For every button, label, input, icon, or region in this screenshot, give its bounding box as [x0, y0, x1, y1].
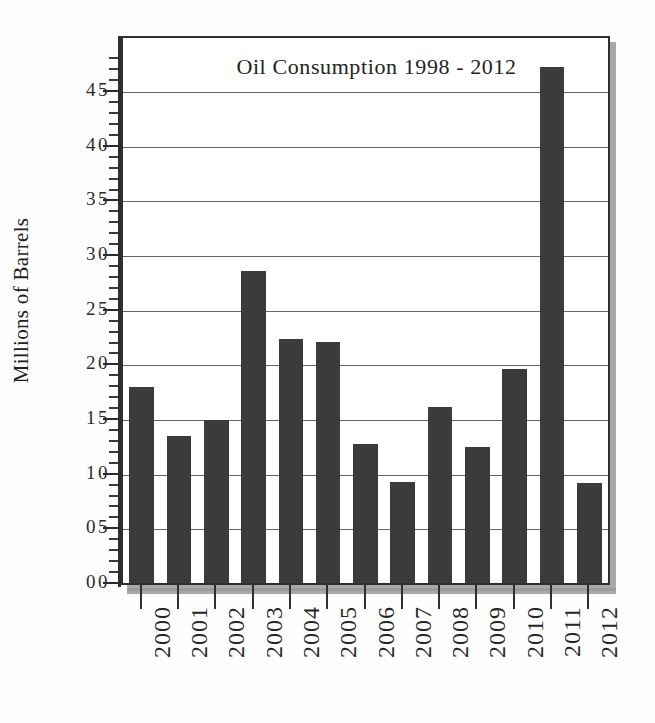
- bar-chart: Millions of Barrels 00051015202530354045…: [0, 0, 655, 723]
- y-axis-minor-tick: [109, 331, 118, 333]
- y-axis-minor-tick: [109, 571, 118, 573]
- y-axis-minor-tick: [109, 68, 118, 70]
- y-axis-minor-tick: [109, 396, 118, 398]
- y-axis-minor-tick: [109, 429, 118, 431]
- y-axis-major-tick: [103, 527, 118, 529]
- y-axis-tick-labels: 00051015202530354045: [52, 0, 114, 723]
- bar: [502, 369, 527, 584]
- y-axis-minor-tick: [109, 287, 118, 289]
- y-axis-major-tick: [103, 199, 118, 201]
- x-axis-tick-label: 2008: [447, 606, 474, 658]
- x-axis-tick-label: 2011: [559, 606, 586, 657]
- y-axis-minor-tick: [109, 495, 118, 497]
- y-axis-minor-tick: [109, 451, 118, 453]
- y-axis-minor-tick: [109, 265, 118, 267]
- x-axis-tick-label: 2012: [596, 606, 623, 658]
- y-axis-major-tick: [103, 145, 118, 147]
- x-axis-tick-label: 2005: [335, 606, 362, 658]
- y-axis-minor-tick: [109, 243, 118, 245]
- y-axis-minor-tick: [109, 407, 118, 409]
- x-axis-tick-labels: 2000200120022003200420052006200720082009…: [121, 606, 610, 716]
- bar: [577, 483, 602, 584]
- y-axis-minor-tick: [109, 79, 118, 81]
- x-axis-tick-label: 2010: [522, 606, 549, 658]
- x-axis-tick-label: 2000: [149, 606, 176, 658]
- y-axis-minor-tick: [109, 320, 118, 322]
- plot-area: Oil Consumption 1998 - 2012: [121, 36, 610, 585]
- bar: [129, 387, 154, 584]
- bar: [465, 447, 490, 584]
- y-axis-major-tick: [103, 254, 118, 256]
- y-axis-minor-tick: [109, 342, 118, 344]
- y-axis-minor-tick: [109, 276, 118, 278]
- bar: [167, 436, 192, 584]
- y-axis-minor-tick: [109, 57, 118, 59]
- x-axis-tick-label: 2006: [373, 606, 400, 658]
- y-axis-minor-tick: [109, 112, 118, 114]
- bar: [279, 339, 304, 584]
- y-axis-minor-tick: [109, 232, 118, 234]
- y-axis-minor-tick: [109, 374, 118, 376]
- x-axis-tick-label: 2001: [186, 606, 213, 658]
- bars-container: [123, 38, 608, 583]
- y-axis-minor-tick: [109, 167, 118, 169]
- y-axis-minor-tick: [109, 101, 118, 103]
- bar: [241, 271, 266, 584]
- y-axis-major-tick: [103, 309, 118, 311]
- y-axis-minor-tick: [109, 505, 118, 507]
- y-axis-major-tick: [103, 418, 118, 420]
- y-axis-minor-tick: [109, 352, 118, 354]
- bar: [316, 342, 341, 584]
- bar: [390, 482, 415, 584]
- y-axis-minor-tick: [109, 123, 118, 125]
- y-axis-title: Millions of Barrels: [0, 0, 44, 600]
- y-axis-minor-tick: [109, 221, 118, 223]
- y-axis-minor-tick: [109, 178, 118, 180]
- bar: [204, 420, 229, 584]
- x-axis-tick-label: 2004: [298, 606, 325, 658]
- y-axis-minor-tick: [109, 210, 118, 212]
- x-axis-tick-label: 2003: [261, 606, 288, 658]
- y-axis-title-text: Millions of Barrels: [10, 217, 35, 383]
- y-axis-minor-tick: [109, 134, 118, 136]
- x-axis-tick-label: 2007: [410, 606, 437, 658]
- y-axis-minor-tick: [109, 385, 118, 387]
- y-axis-minor-tick: [109, 549, 118, 551]
- x-axis-tick-label: 2002: [223, 606, 250, 658]
- y-axis-spine: [118, 36, 121, 587]
- y-axis-minor-tick: [109, 462, 118, 464]
- y-axis-major-tick: [103, 90, 118, 92]
- y-axis-minor-tick: [109, 440, 118, 442]
- y-axis-major-tick: [103, 582, 118, 584]
- y-axis-minor-tick: [109, 560, 118, 562]
- y-axis-minor-tick: [109, 484, 118, 486]
- bar: [540, 67, 565, 584]
- y-axis-minor-tick: [109, 156, 118, 158]
- bar: [428, 407, 453, 584]
- y-axis-minor-tick: [109, 538, 118, 540]
- y-axis-major-tick: [103, 363, 118, 365]
- y-axis-minor-tick: [109, 189, 118, 191]
- y-axis-major-tick: [103, 473, 118, 475]
- y-axis-minor-tick: [109, 298, 118, 300]
- y-axis-minor-tick: [109, 516, 118, 518]
- x-axis-tick-label: 2009: [484, 606, 511, 658]
- bar: [353, 444, 378, 584]
